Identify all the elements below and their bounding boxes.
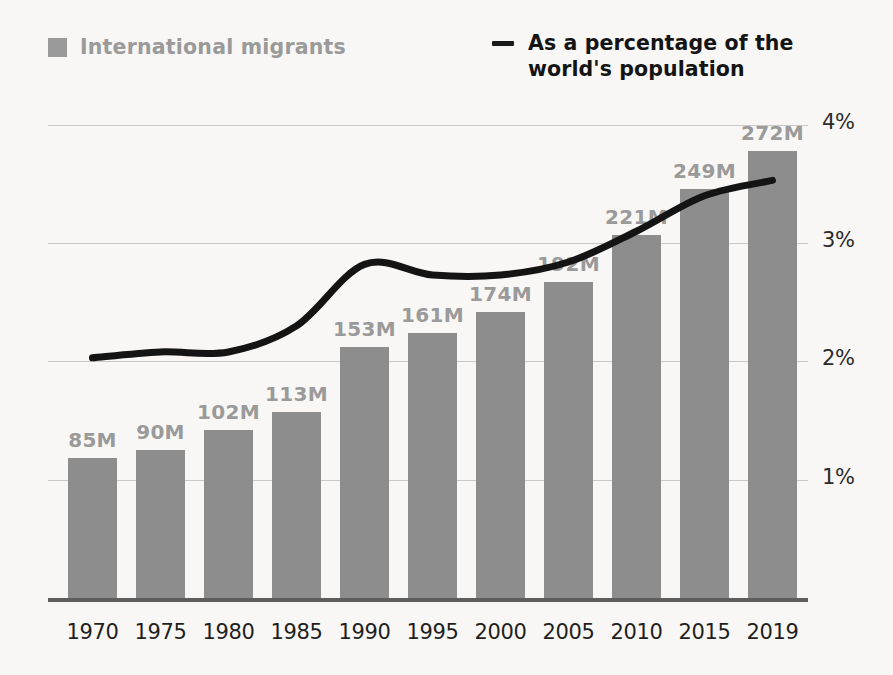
y-axis-tick-label: 1%	[822, 465, 882, 489]
bar-value-label: 161M	[388, 303, 478, 327]
x-axis-baseline	[48, 598, 808, 602]
y-axis-tick-label: 3%	[822, 228, 882, 252]
plot-area: 4%3%2%1%85M197090M1975102M1980113M198515…	[0, 0, 893, 675]
bar	[476, 312, 525, 598]
bar-value-label: 272M	[728, 121, 818, 145]
bar-value-label: 221M	[592, 205, 682, 229]
y-axis-tick-label: 2%	[822, 346, 882, 370]
bar	[136, 450, 185, 598]
bar-value-label: 249M	[660, 159, 750, 183]
bar	[68, 458, 117, 598]
bar	[680, 189, 729, 598]
bar-value-label: 113M	[252, 382, 342, 406]
bar-value-label: 192M	[524, 252, 614, 276]
bar	[204, 430, 253, 598]
bar	[408, 333, 457, 598]
bar	[748, 151, 797, 598]
gridline-4pct	[48, 125, 808, 126]
x-axis-tick-label: 2019	[728, 620, 818, 644]
bar	[340, 347, 389, 598]
migration-chart: International migrants As a percentage o…	[0, 0, 893, 675]
bar-value-label: 174M	[456, 282, 546, 306]
y-axis-tick-label: 4%	[822, 110, 882, 134]
bar	[272, 412, 321, 598]
bar	[612, 235, 661, 598]
bar	[544, 282, 593, 598]
